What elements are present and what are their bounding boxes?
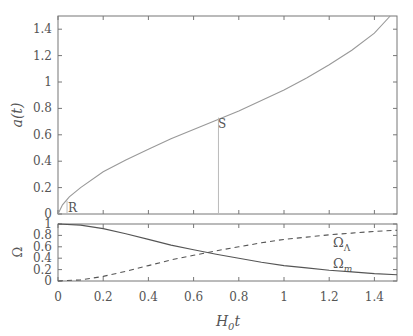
chart: 00.20.40.60.811.21.4 00.20.40.60.811.21.…: [0, 0, 413, 336]
marker-s-label: S: [218, 117, 226, 131]
y-tick-label: 0.6: [33, 128, 52, 142]
x-tick-label: 1.2: [320, 290, 339, 304]
y-tick-label: 1.2: [33, 49, 52, 63]
x-tick-label: 0.2: [94, 290, 113, 304]
y-tick-label: 1.4: [33, 22, 52, 36]
omega-lambda-label: ΩΛ: [333, 235, 351, 253]
y-tick-label: 0.4: [33, 154, 52, 168]
upper-plot: 00.20.40.60.811.21.4: [33, 16, 397, 221]
x-tick-label: 0.6: [184, 290, 203, 304]
marker-r-label: R: [68, 201, 78, 215]
x-tick-label: 0: [54, 290, 62, 304]
y-tick-label: 1: [44, 217, 52, 231]
x-tick-label: 1: [280, 290, 288, 304]
lower-y-axis-label: Ω: [10, 247, 25, 258]
upper-y-axis-label: a(t): [9, 103, 25, 128]
x-tick-label: 1.4: [365, 290, 384, 304]
y-tick-label: 1: [44, 75, 52, 89]
x-tick-label: 0.4: [139, 290, 158, 304]
x-axis-label: H0t: [215, 313, 241, 332]
y-tick-label: 0.2: [33, 181, 52, 195]
upper-plot-frame: [58, 16, 397, 214]
y-tick-label: 0.8: [33, 101, 52, 115]
series-line: [58, 16, 390, 214]
x-tick-label: 0.8: [229, 290, 248, 304]
